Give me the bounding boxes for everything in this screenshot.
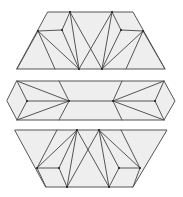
- middle-hexagon-shape: [7, 81, 175, 120]
- top-trapezoid-face: [17, 12, 165, 69]
- vertex-dot: [58, 167, 60, 169]
- vertex-dot: [112, 100, 114, 102]
- top-trapezoid-shape: [17, 11, 165, 70]
- vertex-dot: [26, 100, 28, 102]
- vertex-dot: [108, 186, 110, 188]
- polyhedron-net-diagram: [0, 0, 183, 197]
- vertex-dot: [98, 129, 100, 131]
- vertex-dot: [36, 167, 38, 169]
- vertex-dot: [61, 29, 63, 31]
- vertex-dot: [154, 100, 156, 102]
- vertex-dot: [142, 30, 144, 32]
- vertex-dot: [118, 167, 120, 169]
- vertex-dot: [120, 29, 122, 31]
- vertex-dot: [68, 100, 70, 102]
- vertex-dot: [66, 186, 68, 188]
- diagram-canvas: [0, 0, 183, 197]
- vertex-dot: [76, 129, 78, 131]
- vertex-dot: [101, 68, 103, 70]
- vertex-dot: [37, 30, 39, 32]
- vertex-dot: [111, 11, 113, 13]
- vertex-dot: [69, 11, 71, 13]
- bottom-trapezoid-face: [15, 130, 167, 187]
- vertex-dot: [78, 68, 80, 70]
- vertex-dot: [139, 167, 141, 169]
- bottom-trapezoid-shape: [15, 129, 167, 188]
